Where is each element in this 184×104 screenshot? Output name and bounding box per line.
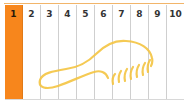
column-number: 10 bbox=[167, 9, 184, 19]
grid-column-3: 3 bbox=[41, 5, 59, 100]
top-rule bbox=[4, 3, 184, 4]
grid-column-1: 1 bbox=[5, 5, 23, 100]
grid-column-8: 8 bbox=[131, 5, 149, 100]
column-number: 8 bbox=[131, 9, 148, 19]
column-number: 5 bbox=[77, 9, 94, 19]
column-number: 2 bbox=[23, 9, 40, 19]
column-number: 3 bbox=[41, 9, 58, 19]
grid-column-4: 4 bbox=[59, 5, 77, 100]
column-number: 7 bbox=[113, 9, 130, 19]
grid-column-10: 10 bbox=[167, 5, 184, 100]
column-number: 1 bbox=[5, 9, 22, 19]
column-number: 6 bbox=[95, 9, 112, 19]
grid-column-9: 9 bbox=[149, 5, 167, 100]
grid-column-6: 6 bbox=[95, 5, 113, 100]
grid-column-2: 2 bbox=[23, 5, 41, 100]
column-number: 4 bbox=[59, 9, 76, 19]
bottom-rule bbox=[5, 99, 184, 100]
column-number: 9 bbox=[149, 9, 166, 19]
grid-column-5: 5 bbox=[77, 5, 95, 100]
grid-column-7: 7 bbox=[113, 5, 131, 100]
number-grid: 1 2 3 4 5 6 7 8 9 10 bbox=[5, 5, 184, 100]
